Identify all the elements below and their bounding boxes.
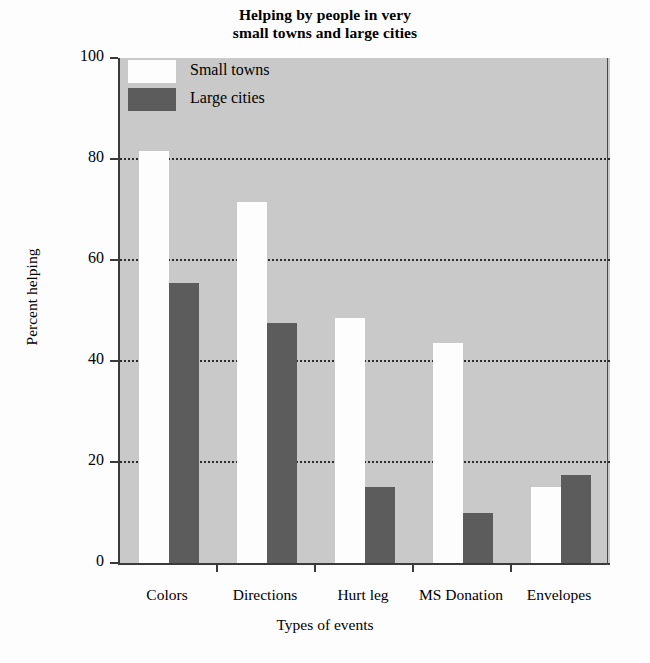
plot-frame-right-edge <box>607 58 608 565</box>
y-tick-label: 80 <box>56 148 104 166</box>
bar-large-cities-envelopes <box>561 475 591 563</box>
x-tick-mark <box>510 563 512 572</box>
bar-large-cities-colors <box>169 283 199 563</box>
y-tick-mark <box>110 57 118 59</box>
legend-item: Small towns <box>128 60 358 84</box>
chart-title-line-1: Helping by people in very <box>239 6 411 23</box>
plot-area <box>118 58 610 565</box>
y-tick-label: 40 <box>56 350 104 368</box>
legend-swatch-small-towns <box>128 60 176 83</box>
y-tick-label: 100 <box>56 47 104 65</box>
chart-title-line-2: small towns and large cities <box>0 24 650 42</box>
x-tick-mark <box>216 563 218 572</box>
legend-item: Large cities <box>128 88 358 112</box>
y-tick-mark <box>110 158 118 160</box>
y-tick-mark <box>110 562 118 564</box>
x-tick-label-ms-donation: MS Donation <box>412 586 510 604</box>
bar-large-cities-directions <box>267 323 297 563</box>
legend-label: Small towns <box>190 61 270 79</box>
chart-title: Helping by people in very small towns an… <box>0 6 650 42</box>
legend-swatch-large-cities <box>128 88 176 111</box>
gridline <box>120 259 610 261</box>
bar-small-towns-colors <box>139 151 169 563</box>
x-tick-mark <box>314 563 316 572</box>
x-tick-label-hurt-leg: Hurt leg <box>314 586 412 604</box>
y-axis-label: Percent helping <box>23 207 41 387</box>
gridline <box>120 158 610 160</box>
x-tick-label-envelopes: Envelopes <box>510 586 608 604</box>
y-tick-mark <box>110 360 118 362</box>
legend-label: Large cities <box>190 89 265 107</box>
bar-small-towns-directions <box>237 202 267 563</box>
bar-small-towns-envelopes <box>531 487 561 563</box>
chart-legend: Small townsLarge cities <box>128 60 358 116</box>
y-tick-label: 0 <box>56 552 104 570</box>
y-tick-label: 20 <box>56 451 104 469</box>
bar-small-towns-ms-donation <box>433 343 463 563</box>
y-tick-label: 60 <box>56 249 104 267</box>
bar-chart-figure: Helping by people in very small towns an… <box>0 0 650 663</box>
x-tick-label-directions: Directions <box>216 586 314 604</box>
bar-large-cities-hurt-leg <box>365 487 395 563</box>
bar-large-cities-ms-donation <box>463 513 493 564</box>
x-axis-label: Types of events <box>0 616 650 634</box>
bar-small-towns-hurt-leg <box>335 318 365 563</box>
y-tick-mark <box>110 259 118 261</box>
x-tick-mark <box>412 563 414 572</box>
y-tick-mark <box>110 461 118 463</box>
x-tick-label-colors: Colors <box>118 586 216 604</box>
